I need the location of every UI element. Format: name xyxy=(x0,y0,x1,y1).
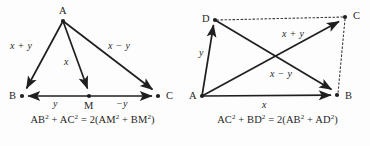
edge-label-x: x xyxy=(262,100,267,110)
edge-A-to-B xyxy=(202,95,331,96)
edge-label-y: y xyxy=(53,99,58,109)
caption-exp-3: 2 xyxy=(301,113,305,121)
edge-label-y: y xyxy=(199,48,204,58)
caption-exp-2: 2 xyxy=(262,113,266,121)
vertex-dot-D xyxy=(213,18,217,22)
edge-label-x-minus-y: x − y xyxy=(108,41,130,51)
vertex-dot-C xyxy=(343,15,347,19)
parallelogram-svg xyxy=(185,0,370,112)
vertex-dot-B xyxy=(20,94,24,98)
caption-plus-2: + xyxy=(122,114,128,125)
caption-exp-2: 2 xyxy=(75,113,79,121)
caption-term-4: BM xyxy=(131,114,148,125)
caption-plus-1: + xyxy=(238,114,244,125)
caption-term-3: AM xyxy=(99,114,116,125)
vertex-dot-B xyxy=(335,93,339,97)
caption-term-1: AC xyxy=(217,114,232,125)
median-triangle-svg xyxy=(0,0,185,112)
vertex-dot-A xyxy=(200,94,204,98)
edge-A-to-C xyxy=(202,22,339,97)
caption-exp-1: 2 xyxy=(45,113,49,121)
caption-median-triangle: AB2 + AC2 = 2(AM2 + BM2) xyxy=(0,114,185,125)
geometry-figure: A B M C x + y x x − y y −y AB2 + AC2 = 2… xyxy=(0,0,370,146)
vertex-dot-M xyxy=(87,94,91,98)
edge-A-to-D xyxy=(202,25,214,96)
caption-close: ) xyxy=(151,114,155,125)
edge-C-to-B xyxy=(338,19,345,93)
caption-term-3: AB xyxy=(286,114,301,125)
caption-equals: = xyxy=(268,114,274,125)
caption-plus-1: + xyxy=(52,114,58,125)
caption-factor: 2( xyxy=(277,114,286,125)
vertex-label-C: C xyxy=(353,11,360,22)
caption-close: ) xyxy=(334,114,338,125)
caption-term-2: BD xyxy=(247,114,262,125)
vertex-label-B: B xyxy=(345,91,352,102)
edge-label-x-plus-y: x + y xyxy=(282,29,304,39)
vertex-dot-A xyxy=(61,19,65,23)
vertex-label-C: C xyxy=(166,91,173,102)
caption-term-2: AC xyxy=(60,114,75,125)
vertex-label-A: A xyxy=(59,6,67,17)
caption-exp-1: 2 xyxy=(232,113,236,121)
edge-A-to-B xyxy=(27,21,64,89)
diagram-panel-parallelogram: D C A B y x + y x − y x AC2 + BD2 = 2(AB… xyxy=(185,0,370,146)
vertex-label-B: B xyxy=(9,91,16,102)
edge-D-to-C xyxy=(217,17,343,20)
vertex-label-A: A xyxy=(189,91,197,102)
diagram-panel-median-triangle: A B M C x + y x x − y y −y AB2 + AC2 = 2… xyxy=(0,0,185,146)
edge-label-x-plus-y: x + y xyxy=(10,41,32,51)
edge-A-to-C xyxy=(63,21,153,90)
caption-equals: = xyxy=(81,114,87,125)
caption-exp-3: 2 xyxy=(116,113,120,121)
caption-plus-2: + xyxy=(307,114,313,125)
caption-term-4: AD xyxy=(315,114,330,125)
caption-factor: 2( xyxy=(90,114,99,125)
edge-label-x-minus-y: x − y xyxy=(270,69,292,79)
vertex-label-M: M xyxy=(84,101,94,112)
caption-term-1: AB xyxy=(30,114,45,125)
vertex-label-D: D xyxy=(202,14,210,25)
edge-label-minus-y: −y xyxy=(116,99,128,109)
vertex-dot-C xyxy=(156,94,160,98)
caption-parallelogram: AC2 + BD2 = 2(AB2 + AD2) xyxy=(185,114,370,125)
edge-label-x: x xyxy=(64,57,69,67)
